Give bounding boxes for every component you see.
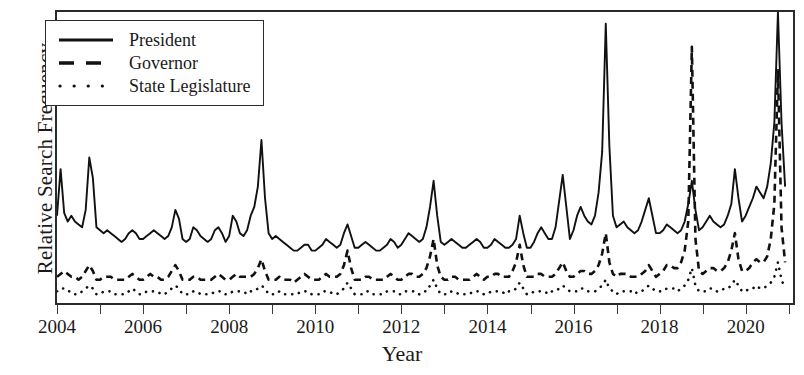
legend-swatch-dashed-icon	[57, 55, 115, 71]
x-tick-2020	[746, 305, 747, 314]
legend-label-state-legislature: State Legislature	[129, 77, 250, 95]
x-tick-label-2008: 2008	[189, 316, 269, 338]
x-tick-2004	[57, 305, 58, 314]
legend-swatch-solid-icon	[57, 32, 115, 48]
x-tick-label-2014: 2014	[447, 316, 527, 338]
x-tick-2015	[531, 305, 532, 314]
x-tick-2012	[401, 305, 402, 314]
x-tick-label-2016: 2016	[534, 316, 614, 338]
legend-label-governor: Governor	[129, 54, 198, 72]
x-tick-label-2020: 2020	[706, 316, 786, 338]
x-tick-2021	[789, 305, 790, 314]
x-tick-2017	[617, 305, 618, 314]
x-tick-2014	[487, 305, 488, 314]
legend-label-president: President	[129, 31, 196, 49]
x-tick-2006	[143, 305, 144, 314]
x-tick-2010	[315, 305, 316, 314]
x-tick-2016	[574, 305, 575, 314]
chart-figure: Relative Search Frequency President Gove…	[0, 0, 804, 375]
legend-item-state-legislature: State Legislature	[57, 74, 250, 97]
legend-item-president: President	[57, 28, 250, 51]
x-tick-2019	[703, 305, 704, 314]
x-tick-label-2018: 2018	[620, 316, 700, 338]
legend-item-governor: Governor	[57, 51, 250, 74]
x-tick-2018	[660, 305, 661, 314]
x-tick-label-2004: 2004	[17, 316, 97, 338]
x-tick-2013	[444, 305, 445, 314]
legend-swatch-dotted-icon	[57, 78, 115, 94]
x-tick-2007	[186, 305, 187, 314]
x-tick-label-2010: 2010	[275, 316, 355, 338]
x-tick-2008	[229, 305, 230, 314]
chart-legend: President Governor State Legislature	[45, 20, 264, 106]
x-tick-label-2012: 2012	[361, 316, 441, 338]
x-tick-2009	[272, 305, 273, 314]
x-axis-label: Year	[0, 341, 804, 367]
x-tick-2011	[358, 305, 359, 314]
x-tick-2005	[100, 305, 101, 314]
x-tick-label-2006: 2006	[103, 316, 183, 338]
